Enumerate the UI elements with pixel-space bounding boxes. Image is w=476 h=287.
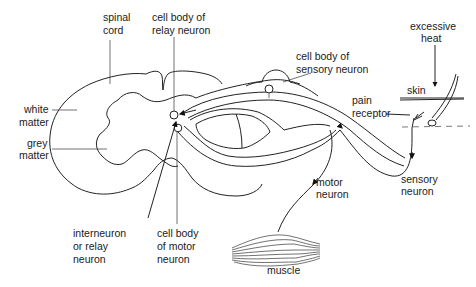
label-relay-cell-1: cell body of — [152, 11, 205, 23]
label-muscle: muscle — [267, 264, 300, 276]
muscle — [232, 235, 320, 266]
label-interneuron-3: neuron — [73, 253, 106, 265]
label-motor-neuron-2: neuron — [316, 188, 349, 200]
label-grey-matter-2: matter — [19, 149, 49, 161]
label-heat-2: heat — [421, 32, 442, 44]
label-motor-cell-2: of motor — [157, 240, 196, 252]
label-sensory-neuron-2: neuron — [401, 185, 434, 197]
label-grey-matter-1: grey — [27, 137, 48, 149]
sensory-cell-body — [265, 85, 273, 93]
label-heat-1: excessive — [410, 20, 456, 32]
relay-cell-body — [170, 111, 178, 119]
label-interneuron-2: or relay — [73, 240, 109, 252]
spinal-cord — [50, 71, 262, 196]
label-pain-receptor-2: receptor — [352, 107, 391, 119]
label-sensory-cell-2: sensory neuron — [296, 63, 369, 75]
label-motor-cell-1: cell body — [157, 227, 199, 239]
label-motor-cell-3: neuron — [157, 253, 190, 265]
label-sensory-neuron-1: sensory — [401, 173, 439, 185]
label-white-matter-1: white — [23, 103, 49, 115]
leader-lines — [52, 37, 311, 224]
label-relay-cell-2: relay neuron — [152, 24, 211, 36]
label-spinal-cord-2: cord — [103, 24, 124, 36]
labels: spinal cord cell body of relay neuron ce… — [19, 11, 456, 276]
label-interneuron-1: interneuron — [73, 227, 126, 239]
label-sensory-cell-1: cell body of — [296, 50, 349, 62]
pain-receptor — [386, 112, 424, 128]
label-pain-receptor-1: pain — [352, 94, 372, 106]
label-motor-neuron-1: motor — [316, 176, 343, 188]
label-skin: skin — [407, 84, 426, 96]
ventral-loop — [178, 109, 340, 167]
reflex-arc-diagram: spinal cord cell body of relay neuron ce… — [0, 0, 476, 287]
label-white-matter-2: matter — [19, 116, 49, 128]
label-spinal-cord-1: spinal — [103, 11, 130, 23]
